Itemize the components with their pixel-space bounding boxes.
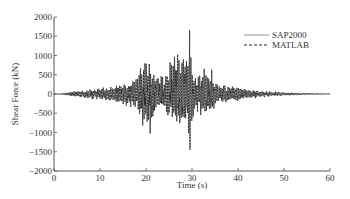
x-tick-label: 0 (52, 173, 57, 183)
x-tick-label: 20 (142, 173, 152, 183)
x-tick-label: 50 (280, 173, 290, 183)
x-axis-label: Time (s) (177, 180, 207, 190)
y-axis-label: Shear Force (kN) (10, 63, 20, 125)
x-tick-label: 10 (96, 173, 106, 183)
y-tick-label: 500 (39, 70, 53, 80)
y-tick-label: −2000 (29, 166, 53, 176)
y-tick-label: 2000 (34, 12, 53, 22)
legend-label-matlab: MATLAB (272, 40, 309, 50)
y-tick-label: −1000 (29, 128, 53, 138)
legend-label-sap2000: SAP2000 (272, 30, 307, 40)
y-tick-label: 1500 (34, 31, 53, 41)
y-tick-label: 0 (48, 89, 53, 99)
shear-force-chart: 01020304050602000150010005000−500−1000−1… (0, 0, 350, 199)
legend: SAP2000MATLAB (244, 30, 309, 50)
y-tick-label: 1000 (34, 51, 53, 61)
y-tick-label: −500 (33, 108, 52, 118)
y-tick-label: −1500 (29, 147, 53, 157)
x-tick-label: 60 (326, 173, 336, 183)
x-tick-label: 40 (234, 173, 244, 183)
